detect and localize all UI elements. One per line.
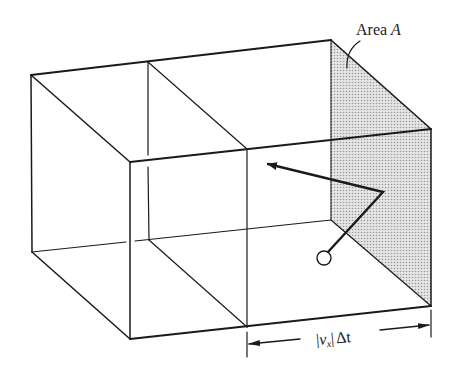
front-bottom-edge [130, 306, 431, 339]
partition-top-edge [148, 62, 247, 149]
left-bottom-diagonal [32, 252, 130, 339]
dimension-arrow-left [249, 339, 300, 344]
back-left-edge [31, 75, 32, 252]
dimension-label: |vx|Δt [315, 328, 352, 350]
partition-back-lower [148, 167, 149, 240]
area-a-label: Area A [356, 21, 401, 38]
box-diagram: Area A |vx|Δt [0, 0, 457, 370]
back-bottom-edge-right [135, 220, 331, 241]
dimension-arrow-right [380, 325, 429, 330]
back-bottom-edge-left [32, 242, 126, 252]
partition-bottom-edge [149, 240, 247, 327]
back-top-edge [31, 40, 331, 75]
left-top-diagonal [31, 75, 130, 162]
area-a-shaded-face [331, 40, 431, 306]
molecule-ball [317, 251, 331, 265]
